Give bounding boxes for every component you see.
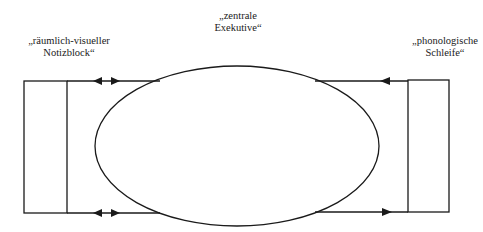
phonological-box	[408, 80, 449, 212]
arrow-left-icon	[93, 209, 102, 217]
arrow-right-icon	[111, 77, 120, 85]
arrow-right-icon	[382, 208, 392, 216]
arrow-left-icon	[93, 77, 102, 85]
visuospatial-box	[24, 81, 67, 213]
central-executive-ellipse	[95, 66, 379, 226]
arrow-right-icon	[111, 209, 120, 217]
arrow-left-icon	[380, 77, 390, 85]
